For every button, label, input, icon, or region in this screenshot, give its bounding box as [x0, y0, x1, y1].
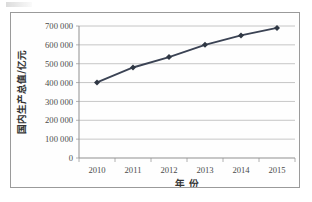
y-axis-tick-label: 0: [69, 153, 73, 163]
y-axis-tick-label: 100 000: [45, 134, 73, 144]
gridlines-group: [79, 26, 295, 139]
data-point-marker: [166, 54, 172, 60]
y-axis-tick-labels: 0100 000200 000300 000400 000500 000600 …: [45, 21, 73, 163]
series-line-gdp: [97, 28, 277, 82]
y-axis-tick-label: 600 000: [45, 40, 73, 50]
data-point-marker: [202, 42, 208, 48]
x-axis-tick-label: 2015: [268, 165, 285, 175]
x-axis-tick-label: 2014: [232, 165, 250, 175]
line-chart: 0100 000200 000300 000400 000500 000600 …: [11, 13, 299, 187]
data-point-marker: [94, 79, 100, 85]
x-axis-title: 年 份: [175, 178, 198, 187]
y-axis-tick-label: 200 000: [45, 115, 73, 125]
x-axis-tick-marks: [79, 158, 295, 162]
x-axis-tick-label: 2013: [196, 165, 213, 175]
y-axis-tick-label: 400 000: [45, 78, 73, 88]
chart-frame: 0100 000200 000300 000400 000500 000600 …: [10, 12, 300, 188]
x-axis-tick-label: 2011: [125, 165, 142, 175]
y-axis-tick-label: 300 000: [45, 97, 73, 107]
scan-artifact: [6, 2, 32, 7]
data-point-marker: [238, 32, 244, 38]
y-axis-tick-label: 500 000: [45, 59, 73, 69]
chart-plot-area: 0100 000200 000300 000400 000500 000600 …: [11, 13, 299, 187]
x-axis-tick-label: 2010: [88, 165, 105, 175]
data-point-marker: [130, 64, 136, 70]
y-axis-title: 国内生产总值/亿元: [16, 50, 27, 134]
y-axis-tick-label: 700 000: [45, 21, 73, 31]
x-axis-tick-labels: 201020112012201320142015: [88, 165, 285, 175]
x-axis-tick-label: 2012: [160, 165, 177, 175]
